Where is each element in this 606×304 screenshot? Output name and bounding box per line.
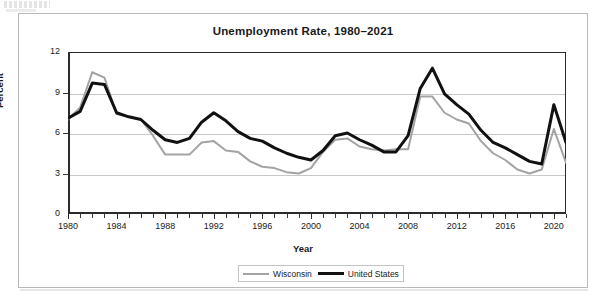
chart-title: Unemployment Rate, 1980–2021 xyxy=(0,25,606,37)
x-tick-2001 xyxy=(323,214,324,218)
x-tick-1999 xyxy=(299,214,300,218)
x-tick-1988 xyxy=(165,214,166,219)
legend-swatch-wisconsin xyxy=(243,273,269,275)
x-tick-1990 xyxy=(189,214,190,218)
x-tick-label-2008: 2008 xyxy=(388,221,428,231)
x-tick-1998 xyxy=(287,214,288,218)
x-tick-1985 xyxy=(129,214,130,218)
x-tick-label-1984: 1984 xyxy=(97,221,137,231)
x-tick-2007 xyxy=(396,214,397,218)
x-tick-1995 xyxy=(250,214,251,218)
x-tick-label-2020: 2020 xyxy=(534,221,574,231)
x-tick-2004 xyxy=(360,214,361,219)
x-tick-label-1992: 1992 xyxy=(194,221,234,231)
x-tick-1992 xyxy=(214,214,215,219)
x-tick-1982 xyxy=(92,214,93,218)
x-tick-label-2016: 2016 xyxy=(485,221,525,231)
x-tick-2000 xyxy=(311,214,312,219)
legend-swatch-united-states xyxy=(318,272,344,276)
x-tick-2016 xyxy=(505,214,506,219)
chart-page: Unemployment Rate, 1980–2021 Percent Yea… xyxy=(0,0,606,304)
chart-legend: Wisconsin United States xyxy=(238,265,404,282)
legend-item-united-states: United States xyxy=(318,269,399,279)
x-tick-2003 xyxy=(347,214,348,218)
x-tick-2005 xyxy=(372,214,373,218)
x-tick-2014 xyxy=(481,214,482,218)
series-line-united-states xyxy=(68,68,566,164)
x-tick-1994 xyxy=(238,214,239,218)
legend-label-wisconsin: Wisconsin xyxy=(273,269,312,279)
y-tick-label-9: 9 xyxy=(38,87,60,97)
y-tick-label-12: 12 xyxy=(38,46,60,56)
x-tick-1983 xyxy=(104,214,105,218)
x-tick-label-1996: 1996 xyxy=(242,221,282,231)
x-tick-1996 xyxy=(262,214,263,219)
scan-artifact-secondary xyxy=(6,9,36,12)
x-tick-2019 xyxy=(542,214,543,218)
x-tick-2020 xyxy=(554,214,555,219)
x-tick-1991 xyxy=(202,214,203,218)
x-tick-2015 xyxy=(493,214,494,218)
x-tick-2018 xyxy=(530,214,531,218)
x-tick-2008 xyxy=(408,214,409,219)
series-lines xyxy=(68,52,566,214)
x-tick-1989 xyxy=(177,214,178,218)
x-tick-label-2012: 2012 xyxy=(437,221,477,231)
x-tick-1987 xyxy=(153,214,154,218)
x-tick-2002 xyxy=(335,214,336,218)
x-tick-label-1980: 1980 xyxy=(48,221,88,231)
x-tick-1993 xyxy=(226,214,227,218)
x-axis-title: Year xyxy=(0,243,606,254)
x-tick-label-2004: 2004 xyxy=(340,221,380,231)
y-tick-label-3: 3 xyxy=(38,168,60,178)
x-tick-label-1988: 1988 xyxy=(145,221,185,231)
x-tick-1981 xyxy=(80,214,81,218)
x-tick-1984 xyxy=(117,214,118,219)
x-tick-label-2000: 2000 xyxy=(291,221,331,231)
x-tick-1997 xyxy=(274,214,275,218)
x-tick-2021 xyxy=(566,214,567,218)
x-tick-2013 xyxy=(469,214,470,218)
legend-item-wisconsin: Wisconsin xyxy=(243,269,312,279)
legend-label-united-states: United States xyxy=(348,269,399,279)
x-tick-2010 xyxy=(432,214,433,218)
x-tick-2009 xyxy=(420,214,421,218)
x-tick-2011 xyxy=(445,214,446,218)
scan-artifact xyxy=(4,1,50,8)
x-tick-2012 xyxy=(457,214,458,219)
x-tick-1986 xyxy=(141,214,142,218)
frame-shadow xyxy=(20,289,588,291)
x-tick-1980 xyxy=(68,214,69,219)
x-tick-2017 xyxy=(517,214,518,218)
x-tick-2006 xyxy=(384,214,385,218)
y-tick-label-6: 6 xyxy=(38,127,60,137)
y-axis-title: Percent xyxy=(0,73,5,108)
y-tick-label-0: 0 xyxy=(38,208,60,218)
